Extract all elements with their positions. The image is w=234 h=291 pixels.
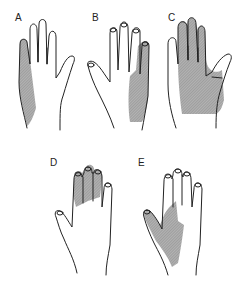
- panel-e: E: [128, 145, 218, 291]
- hand-b-illustration: [80, 0, 156, 145]
- panel-d: D: [40, 145, 120, 291]
- panel-b: B: [80, 0, 156, 145]
- hand-e-illustration: [128, 145, 218, 291]
- hand-a-illustration: [0, 0, 78, 145]
- panel-c: C: [156, 0, 234, 145]
- panel-a: A: [0, 0, 78, 145]
- hand-c-illustration: [156, 0, 234, 145]
- shaded-region-c: [178, 18, 224, 114]
- shaded-region-a: [19, 39, 36, 126]
- hand-d-illustration: [40, 145, 120, 291]
